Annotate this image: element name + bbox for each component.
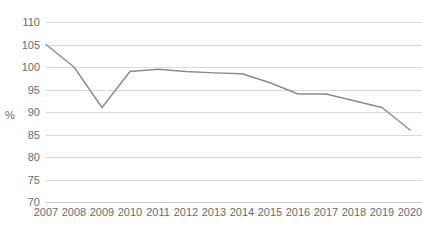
x-tick-label-2011: 2011 xyxy=(146,206,170,218)
x-tick-label-2012: 2012 xyxy=(174,206,198,218)
y-axis-title: % xyxy=(5,109,15,121)
y-tick-label-90: 90 xyxy=(28,106,40,118)
y-tick-label-75: 75 xyxy=(28,174,40,186)
x-tick-label-2018: 2018 xyxy=(342,206,366,218)
chart-canvas: 707580859095100105110 200720082009201020… xyxy=(0,0,422,229)
x-tick-label-2013: 2013 xyxy=(202,206,226,218)
y-tick-label-105: 105 xyxy=(22,39,40,51)
y-tick-label-95: 95 xyxy=(28,84,40,96)
x-tick-label-2019: 2019 xyxy=(370,206,394,218)
x-tick-label-2015: 2015 xyxy=(258,206,282,218)
y-tick-label-80: 80 xyxy=(28,151,40,163)
y-tick-label-110: 110 xyxy=(22,16,40,28)
x-tick-label-2009: 2009 xyxy=(90,206,114,218)
x-axis-tick-labels: 2007200820092010201120122013201420152016… xyxy=(34,206,422,218)
x-tick-label-2007: 2007 xyxy=(34,206,58,218)
x-tick-label-2008: 2008 xyxy=(62,206,86,218)
x-tick-label-2016: 2016 xyxy=(286,206,310,218)
y-axis-tick-labels: 707580859095100105110 xyxy=(22,16,40,208)
y-tick-label-100: 100 xyxy=(22,61,40,73)
x-tick-label-2014: 2014 xyxy=(230,206,254,218)
line-chart: 707580859095100105110 200720082009201020… xyxy=(0,0,422,229)
series-line-percent xyxy=(46,45,410,131)
x-tick-label-2010: 2010 xyxy=(118,206,142,218)
y-tick-label-85: 85 xyxy=(28,129,40,141)
gridlines xyxy=(46,23,422,203)
x-tick-label-2020: 2020 xyxy=(398,206,422,218)
x-tick-label-2017: 2017 xyxy=(314,206,338,218)
